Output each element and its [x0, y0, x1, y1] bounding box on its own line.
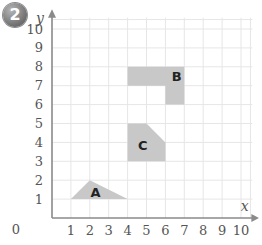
y-tick-label: 2	[35, 173, 43, 188]
x-axis-label: x	[241, 198, 249, 214]
x-tick-label: 5	[142, 223, 150, 238]
y-axis-label: y	[35, 10, 45, 26]
coordinate-grid: ABC12345678910123456789100xy	[0, 0, 262, 245]
x-tick-label: 1	[67, 223, 75, 238]
origin-label: 0	[12, 222, 20, 237]
y-axis-arrow-icon	[48, 9, 56, 18]
y-tick-label: 3	[35, 154, 43, 169]
shape-label-b: B	[172, 69, 182, 84]
y-tick-label: 7	[35, 78, 43, 93]
x-tick-label: 6	[161, 223, 169, 238]
x-tick-label: 2	[86, 223, 94, 238]
x-tick-label: 10	[233, 223, 250, 238]
x-tick-label: 9	[218, 223, 226, 238]
x-axis-arrow-icon	[251, 214, 259, 222]
y-tick-label: 6	[35, 97, 43, 112]
x-tick-label: 7	[180, 223, 188, 238]
x-tick-label: 8	[199, 223, 207, 238]
y-tick-label: 9	[35, 40, 43, 55]
shape-label-a: A	[90, 185, 100, 200]
x-tick-label: 3	[105, 223, 113, 238]
y-tick-label: 1	[35, 192, 43, 207]
shape-label-c: C	[138, 138, 148, 153]
x-tick-label: 4	[123, 223, 131, 238]
y-tick-label: 8	[35, 59, 43, 74]
y-tick-label: 4	[35, 135, 43, 150]
y-tick-label: 5	[35, 116, 43, 131]
